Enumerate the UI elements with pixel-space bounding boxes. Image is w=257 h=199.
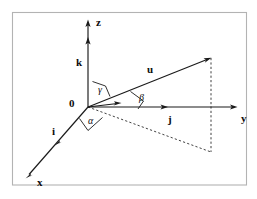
axis-label-y: y: [241, 112, 247, 124]
projection-direction-group: [88, 101, 122, 107]
vector-direction-angles-diagram: z y x 0 k j i u γ β α: [0, 0, 257, 199]
x-axis-group: [26, 107, 89, 179]
angle-beta-label: β: [138, 92, 144, 103]
unit-vector-k-label: k: [76, 56, 83, 68]
z-axis-group: [85, 20, 90, 109]
figure-container: z y x 0 k j i u γ β α: [0, 0, 257, 199]
y-axis-group: [88, 104, 238, 109]
angle-gamma-label: γ: [98, 84, 103, 95]
angle-alpha-label: α: [88, 115, 94, 126]
projection-ray-dashed: [88, 107, 211, 152]
unit-vector-j-label: j: [167, 113, 172, 125]
unit-vector-i-label: i: [52, 125, 55, 137]
labels-group: z y x 0 k j i u γ β α: [37, 16, 247, 188]
vector-u-label: u: [147, 63, 153, 75]
origin-label: 0: [69, 97, 75, 109]
axis-label-z: z: [96, 16, 101, 28]
x-axis-line: [29, 107, 88, 175]
axis-label-x: x: [37, 176, 43, 188]
